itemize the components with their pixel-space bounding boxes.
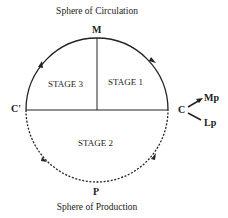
point-mp: Mp (204, 92, 219, 103)
bottom-title: Sphere of Production (0, 202, 194, 212)
branch-line-lp (188, 113, 201, 120)
point-c: C (178, 104, 185, 115)
arrow-icon-upper-left (38, 61, 43, 68)
stage-1-label: STAGE 1 (108, 77, 143, 87)
top-title: Sphere of Circulation (0, 6, 194, 16)
point-m: M (92, 24, 101, 35)
circuit-diagram (0, 0, 228, 218)
point-c-prime: C' (11, 103, 21, 114)
stage-3-label: STAGE 3 (48, 79, 83, 89)
point-lp: Lp (204, 117, 216, 128)
point-p: P (93, 186, 99, 197)
stage-2-label: STAGE 2 (78, 138, 113, 148)
